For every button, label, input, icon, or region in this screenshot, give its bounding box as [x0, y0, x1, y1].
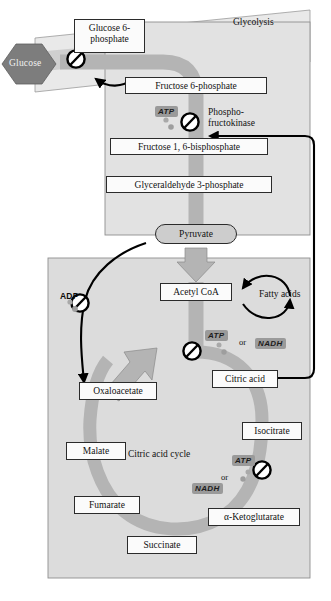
regulator-atp-glycolysis: ATP	[155, 106, 178, 117]
enzyme-phosphofructokinase-line2: fructokinase	[208, 118, 298, 129]
metabolite-glucose-label: Glucose	[9, 58, 42, 68]
metabolite-malate[interactable]: Malate	[66, 442, 126, 460]
figure-canvas: Glycolysis Glucose Glucose 6- phosphate …	[0, 0, 331, 601]
cycle-center-label: Citric acid cycle	[128, 449, 190, 460]
inhibition-symbol-citrate-synthase	[183, 342, 200, 359]
metabolite-glucose-6-phosphate[interactable]: Glucose 6- phosphate	[74, 19, 145, 53]
glycolysis-panel-label: Glycolysis	[233, 17, 274, 28]
regulator-atp-cycle: ATP	[232, 455, 255, 466]
metabolite-pyruvate[interactable]: Pyruvate	[155, 224, 237, 244]
inhibition-symbol-isocitrate-dehydrogenase	[253, 461, 270, 478]
metabolite-acetyl-coa[interactable]: Acetyl CoA	[160, 283, 232, 301]
regulator-or-cycle: or	[221, 472, 228, 482]
metabolite-fumarate[interactable]: Fumarate	[74, 496, 140, 514]
metabolite-alpha-ketoglutarate[interactable]: α-Ketoglutarate	[208, 508, 300, 526]
metabolite-fructose-6-phosphate[interactable]: Fructose 6-phosphate	[125, 77, 267, 94]
regulator-or-acetylcoa: or	[239, 337, 246, 347]
metabolite-fructose-1-6-bisphosphate[interactable]: Fructose 1, 6-bisphosphate	[110, 138, 268, 155]
regulator-nadh-cycle: NADH	[192, 483, 223, 494]
regulator-atp-acetylcoa: ATP	[205, 330, 228, 341]
enzyme-phosphofructokinase: Phospho- fructokinase	[208, 107, 298, 129]
metabolite-oxaloacetate[interactable]: Oxaloacetate	[79, 382, 157, 400]
metabolite-succinate[interactable]: Succinate	[127, 536, 197, 554]
metabolite-glucose-6-phosphate-line2: phosphate	[78, 34, 141, 45]
enzyme-phosphofructokinase-line1: Phospho-	[208, 107, 298, 118]
metabolite-isocitrate[interactable]: Isocitrate	[242, 422, 302, 440]
regulator-adp: ADP	[60, 291, 79, 301]
metabolite-glucose-6-phosphate-line1: Glucose 6-	[78, 23, 141, 34]
metabolite-citric-acid[interactable]: Citric acid	[212, 370, 278, 388]
product-fatty-acids: Fatty acids	[259, 289, 300, 300]
regulator-nadh-acetylcoa: NADH	[255, 338, 286, 349]
inhibition-symbol-phosphofructokinase	[181, 113, 198, 130]
metabolite-glyceraldehyde-3-phosphate[interactable]: Glyceraldehyde 3-phosphate	[106, 176, 272, 193]
